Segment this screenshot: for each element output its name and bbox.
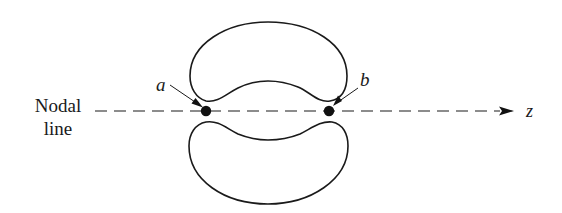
nodal-line-diagram: Nodal line z a b (0, 0, 562, 213)
point-b-arrowhead-icon (333, 96, 342, 107)
point-b-label: b (360, 69, 370, 90)
point-a-dot (201, 106, 211, 116)
z-axis-arrowhead-icon (499, 107, 514, 116)
nodal-line-label-line2: line (44, 118, 73, 139)
lower-lobe (189, 122, 348, 204)
point-b-dot (324, 106, 334, 116)
upper-lobe (190, 22, 347, 101)
z-axis-label: z (525, 101, 533, 121)
nodal-line-label-line1: Nodal (35, 95, 81, 116)
point-a-label: a (156, 74, 166, 95)
